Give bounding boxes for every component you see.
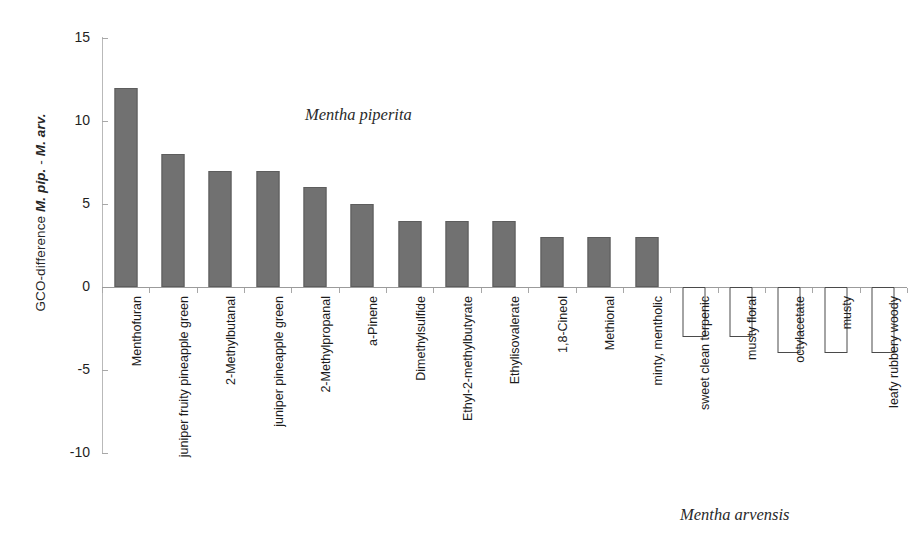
x-axis-tick <box>765 288 766 293</box>
x-axis-category-label: minty, mentholic <box>652 296 665 385</box>
x-axis-tick <box>576 288 577 293</box>
bar-group: Dimethylsulfide <box>386 0 433 554</box>
x-axis-tick <box>244 288 245 293</box>
x-axis-tick <box>386 288 387 293</box>
x-axis-tick <box>339 288 340 293</box>
x-axis-category-label: juniper fruity pineapple green <box>178 296 191 457</box>
bar-group: 2-Methylpropanal <box>291 0 338 554</box>
y-axis-title-prefix: GCO-difference <box>33 212 48 312</box>
x-axis-category-label: Ethyl-2-methylbutyrate <box>462 296 475 421</box>
bar-group: Menthofuran <box>102 0 149 554</box>
bar-group: juniper fruity pineapple green <box>149 0 196 554</box>
bar[interactable] <box>114 88 137 287</box>
x-axis-category-label: 2-Methylbutanal <box>225 296 238 385</box>
x-axis-tick <box>670 288 671 293</box>
x-axis-tick <box>718 288 719 293</box>
y-axis-tick-label: 10 <box>30 112 90 128</box>
x-axis-category-label: juniper pineapple green <box>273 296 286 427</box>
y-axis-tick-label: -10 <box>30 444 90 460</box>
y-axis-tick-label: -5 <box>30 361 90 377</box>
bar[interactable] <box>351 204 374 287</box>
bar-group: octylacetate <box>765 0 812 554</box>
bar[interactable] <box>256 171 279 287</box>
bar[interactable] <box>540 237 563 287</box>
x-axis-category-label: musty <box>841 296 854 329</box>
bar-group: minty, mentholic <box>623 0 670 554</box>
y-axis-tick-label: 15 <box>30 29 90 45</box>
x-axis-tick <box>197 288 198 293</box>
x-axis-category-label: leafy rubbery woody <box>888 296 901 408</box>
annotation-mentha-piperita: Mentha piperita <box>305 105 412 125</box>
x-axis-tick <box>149 288 150 293</box>
bar-group: musty floral <box>718 0 765 554</box>
x-axis-category-label: Menthofuran <box>131 296 144 366</box>
x-axis-category-label: Methional <box>604 296 617 350</box>
bar-group: Methional <box>576 0 623 554</box>
bar-group: musty <box>812 0 859 554</box>
x-axis-category-label: Ethylisovalerate <box>509 296 522 384</box>
y-axis-tick-label: 0 <box>30 278 90 294</box>
x-axis-category-label: 2-Methylpropanal <box>320 296 333 393</box>
bar[interactable] <box>304 187 327 287</box>
bar[interactable] <box>588 237 611 287</box>
x-axis-category-label: a-Pinene <box>367 296 380 346</box>
x-axis-tick <box>433 288 434 293</box>
y-axis-tick-label: 5 <box>30 195 90 211</box>
bar[interactable] <box>446 221 469 287</box>
x-axis-category-label: octylacetate <box>794 296 807 363</box>
annotation-mentha-arvensis: Mentha arvensis <box>680 505 790 525</box>
x-axis-tick <box>623 288 624 293</box>
x-axis-category-label: 1,8-Cineol <box>557 296 570 353</box>
bar-group: juniper pineapple green <box>244 0 291 554</box>
bar-group: 1,8-Cineol <box>528 0 575 554</box>
bar-group: Ethyl-2-methylbutyrate <box>433 0 480 554</box>
y-axis-title-middle: - <box>33 156 48 168</box>
bar-group: leafy rubbery woody <box>860 0 907 554</box>
x-axis-category-label: sweet clean terpenic <box>699 296 712 410</box>
bar[interactable] <box>398 221 421 287</box>
bar-group: Ethylisovalerate <box>481 0 528 554</box>
bar[interactable] <box>162 154 185 287</box>
bar[interactable] <box>635 237 658 287</box>
bar-group: sweet clean terpenic <box>670 0 717 554</box>
x-axis-tick <box>907 288 908 293</box>
bar-group: a-Pinene <box>339 0 386 554</box>
x-axis-tick <box>291 288 292 293</box>
x-axis-tick <box>102 288 103 293</box>
bar-chart: GCO-difference M. pip. - M. arv. 151050-… <box>0 0 911 554</box>
x-axis-category-label: musty floral <box>746 296 759 360</box>
bar[interactable] <box>493 221 516 287</box>
x-axis-tick <box>528 288 529 293</box>
x-axis-tick <box>860 288 861 293</box>
x-axis-tick <box>481 288 482 293</box>
bar-group: 2-Methylbutanal <box>197 0 244 554</box>
x-axis-category-label: Dimethylsulfide <box>415 296 428 381</box>
bar[interactable] <box>209 171 232 287</box>
x-axis-tick <box>812 288 813 293</box>
plot-area: Menthofuranjuniper fruity pineapple gree… <box>102 0 907 554</box>
